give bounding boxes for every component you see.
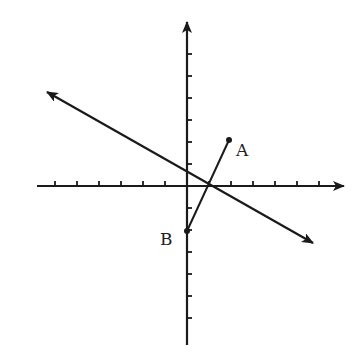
x-axis bbox=[37, 181, 344, 186]
double-arrow-line bbox=[47, 92, 313, 243]
point-a-label: A bbox=[235, 140, 249, 160]
point-a-dot bbox=[226, 137, 232, 143]
coordinate-plane: A B bbox=[0, 0, 363, 359]
point-b-dot bbox=[184, 228, 190, 234]
y-axis bbox=[187, 22, 192, 345]
point-b-label: B bbox=[160, 229, 173, 249]
